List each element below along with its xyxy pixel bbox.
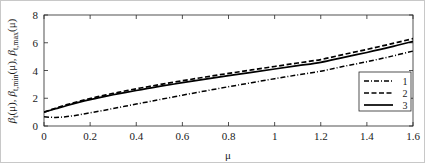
x-tick-label: 0.8 [222, 130, 236, 142]
legend-label-3: 3 [403, 100, 408, 111]
x-tick-label: 1.2 [314, 130, 328, 142]
x-axis-ticks [44, 15, 413, 126]
y-axis-ticks [44, 15, 413, 126]
x-tick-label: 0.6 [176, 130, 190, 142]
y-tick-label: 0 [33, 120, 39, 132]
y-label-arg-2: (μ), [5, 58, 18, 74]
y-tick-label: 6 [33, 37, 39, 49]
y-label-arg-1: (μ), [5, 99, 18, 115]
y-tick-label: 2 [33, 92, 39, 104]
y-label-sub-3: t,max [11, 32, 20, 50]
legend-label-2: 2 [403, 88, 408, 99]
plot-frame [44, 15, 413, 126]
y-axis-title-text: βt(μ),βt,min(μ),βt,max(μ) [5, 18, 20, 124]
legend-label-1: 1 [403, 76, 408, 87]
series-line-1 [44, 51, 413, 117]
plot-area: 00.20.40.60.811.21.41.6 02468 μ βt(μ),βt… [1, 1, 425, 163]
x-tick-label: 0.4 [129, 130, 143, 142]
x-tick-label: 1.6 [406, 130, 420, 142]
y-axis-title: βt(μ),βt,min(μ),βt,max(μ) [5, 18, 20, 124]
x-tick-label: 0.2 [83, 130, 97, 142]
x-tick-label: 1.4 [360, 130, 374, 142]
y-axis-tick-labels: 02468 [33, 9, 39, 132]
x-tick-label: 1 [272, 130, 278, 142]
y-tick-label: 4 [33, 65, 39, 77]
y-tick-label: 8 [33, 9, 39, 21]
x-axis-title: μ [225, 149, 231, 161]
y-label-arg-3: (μ) [5, 18, 18, 32]
x-tick-label: 0 [41, 130, 47, 142]
chart-legend[interactable]: 123 [359, 72, 411, 111]
y-label-sub-2: t,min [11, 74, 20, 91]
x-axis-tick-labels: 00.20.40.60.811.21.41.6 [41, 130, 420, 142]
data-series-group [44, 39, 413, 118]
chart-figure: 00.20.40.60.811.21.41.6 02468 μ βt(μ),βt… [0, 0, 425, 163]
